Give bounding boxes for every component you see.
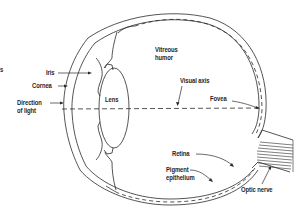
eye-diagram: s Iris Cornea Direction of light Lens Vi… — [0, 0, 296, 212]
retina-label: Retina — [172, 150, 190, 158]
optic-nerve-fibers — [257, 142, 293, 169]
lens-label: Lens — [105, 96, 118, 104]
eye-cross-section-drawing — [0, 0, 296, 212]
lens-shape — [99, 68, 129, 148]
optic-nerve-label: Optic nerve — [241, 186, 273, 194]
direction-of-light-label-line2: of light — [17, 107, 36, 115]
visual-axis-label: Visual axis — [180, 77, 209, 85]
vitreous-humor-label-line2: humor — [155, 54, 173, 62]
cornea-inner — [72, 43, 95, 166]
fovea-label: Fovea — [210, 95, 227, 103]
pigment-epithelium-label-line2: epithelium — [166, 174, 195, 182]
iris-upper — [96, 58, 102, 96]
edge-fragment-label: s — [0, 66, 3, 74]
visual-axis-line — [62, 108, 262, 109]
cornea-label: Cornea — [32, 82, 52, 90]
cornea-outer — [64, 38, 88, 170]
iris-label: Iris — [46, 69, 55, 77]
